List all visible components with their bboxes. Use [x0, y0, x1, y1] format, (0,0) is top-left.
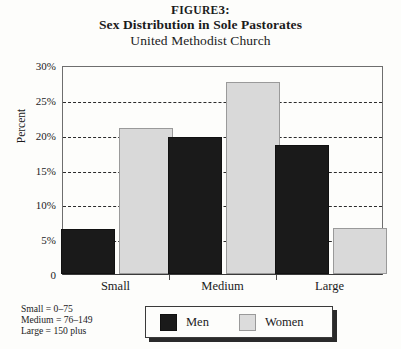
legend-item-women: Women: [239, 314, 304, 331]
legend-swatch-women-icon: [239, 314, 256, 331]
bar-medium-men: [168, 137, 222, 274]
footnote-line: Large = 150 plus: [21, 325, 93, 336]
legend: Men Women: [145, 306, 333, 338]
legend-label-men: Men: [186, 316, 209, 329]
x-axis-label-medium: Medium: [173, 279, 273, 293]
y-axis-tick-label: 10%: [22, 200, 56, 211]
bar-medium-women: [226, 82, 280, 274]
footnote: Small = 0–75 Medium = 76–149 Large = 150…: [21, 303, 93, 337]
bar-small-men: [61, 229, 115, 274]
x-axis-tick-mark: [276, 275, 277, 280]
legend-label-women: Women: [265, 316, 304, 329]
x-axis-tick-mark: [169, 275, 170, 280]
footnote-line: Medium = 76–149: [21, 314, 93, 325]
footnote-line: Small = 0–75: [21, 303, 93, 314]
bar-chart: Percent 30%25%20%15%10%5%0 SmallMediumLa…: [0, 0, 401, 349]
y-axis-tick-label: 15%: [22, 165, 56, 176]
x-axis-label-small: Small: [66, 279, 166, 293]
gridline: [63, 206, 382, 207]
gridline: [63, 137, 382, 138]
y-axis-tick-label: 5%: [22, 235, 56, 246]
x-axis-label-large: Large: [280, 279, 380, 293]
gridline: [63, 172, 382, 173]
bar-large-men: [275, 145, 329, 274]
legend-item-men: Men: [160, 314, 209, 331]
gridline: [63, 102, 382, 103]
legend-swatch-men-icon: [160, 314, 177, 331]
y-axis-tick-label: 25%: [22, 95, 56, 106]
y-axis-tick-label: 20%: [22, 130, 56, 141]
bar-large-women: [333, 228, 387, 274]
plot-area: [62, 66, 383, 275]
bar-small-women: [119, 128, 173, 274]
y-axis-tick-label: 0: [22, 270, 56, 281]
y-axis-tick-label: 30%: [22, 61, 56, 72]
